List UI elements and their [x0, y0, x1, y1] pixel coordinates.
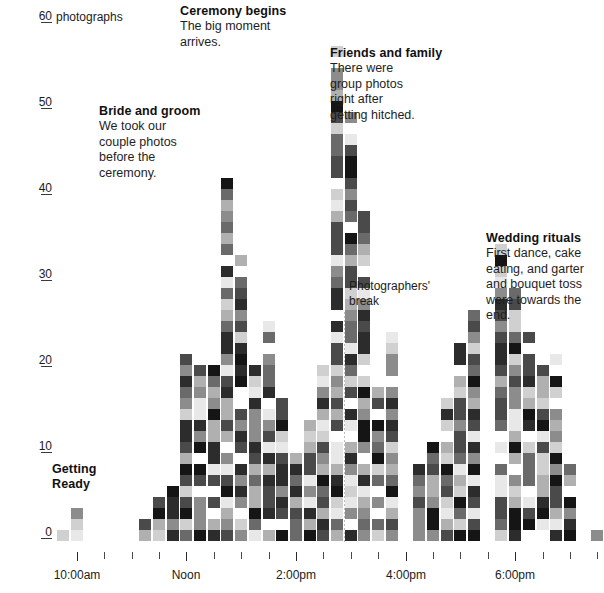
photo-cell — [304, 519, 316, 530]
photo-cell — [345, 442, 357, 453]
photo-cell — [153, 519, 165, 530]
photo-cell — [331, 409, 343, 420]
photo-cell — [441, 464, 453, 475]
photo-cell — [495, 387, 507, 398]
photo-cell — [263, 398, 275, 409]
photo-cell — [221, 178, 233, 189]
photo-cell — [180, 453, 192, 464]
photo-cell — [331, 431, 343, 442]
photo-cell — [249, 365, 261, 376]
photo-cell — [523, 354, 535, 365]
photo-cell — [358, 376, 370, 387]
annotation-heading: Ceremony begins — [180, 4, 286, 19]
photo-cell — [386, 475, 398, 486]
photo-cell — [523, 431, 535, 442]
photo-cell — [235, 343, 247, 354]
photo-cell — [468, 530, 480, 541]
photo-cell — [509, 343, 521, 354]
annotation-body: We took our couple photos before the cer… — [99, 119, 201, 181]
photo-cell — [331, 442, 343, 453]
photo-cell — [345, 189, 357, 200]
photo-cell — [468, 299, 480, 310]
photo-cell — [290, 530, 302, 541]
photo-cell — [537, 409, 549, 420]
photo-cell — [345, 453, 357, 464]
photo-cell — [235, 442, 247, 453]
photo-cell — [208, 398, 220, 409]
photo-cell — [441, 453, 453, 464]
photo-cell — [263, 442, 275, 453]
photo-cell — [358, 211, 370, 222]
photo-cell — [167, 519, 179, 530]
photo-cell — [221, 266, 233, 277]
photo-cell — [495, 354, 507, 365]
photo-cell — [235, 453, 247, 464]
photo-cell — [249, 453, 261, 464]
photo-cell — [276, 420, 288, 431]
photo-cell — [537, 431, 549, 442]
photo-cell — [509, 376, 521, 387]
annotation-body-line: before the — [99, 150, 201, 166]
photo-cell — [454, 387, 466, 398]
photo-cell — [235, 288, 247, 299]
photo-cell — [221, 431, 233, 442]
photographers-break-divider — [344, 312, 345, 542]
photo-cell — [249, 486, 261, 497]
photo-cell — [454, 343, 466, 354]
photo-cell — [208, 519, 220, 530]
photo-cell — [495, 420, 507, 431]
photo-cell — [317, 442, 329, 453]
photo-cell — [345, 530, 357, 541]
photo-cell — [345, 255, 357, 266]
photo-cell — [564, 464, 576, 475]
photo-cell — [317, 486, 329, 497]
photo-cell — [345, 266, 357, 277]
photo-cell — [180, 431, 192, 442]
photo-cell — [537, 442, 549, 453]
photo-cell — [221, 211, 233, 222]
photo-cell — [304, 497, 316, 508]
photo-cell — [386, 398, 398, 409]
photo-cell — [194, 464, 206, 475]
annotation-body-line: The big moment — [180, 19, 286, 35]
photo-cell — [537, 376, 549, 387]
photo-cell — [358, 486, 370, 497]
photo-cell — [537, 508, 549, 519]
photo-cell — [331, 299, 343, 310]
annotation-body-line: eating, and garter — [486, 262, 584, 278]
photo-cell — [345, 354, 357, 365]
photo-cell — [372, 442, 384, 453]
photo-cell — [208, 420, 220, 431]
photo-cell — [71, 530, 83, 541]
photo-cell — [591, 530, 603, 541]
photo-cell — [386, 343, 398, 354]
photo-cell — [441, 475, 453, 486]
photo-cell — [249, 354, 261, 365]
photo-cell — [372, 508, 384, 519]
photo-cell — [263, 497, 275, 508]
photo-cell — [263, 431, 275, 442]
photo-cell — [509, 409, 521, 420]
photo-cell — [345, 387, 357, 398]
photo-cell — [290, 508, 302, 519]
annotation-body: The big moment arrives. — [180, 19, 286, 50]
photo-cell — [331, 178, 343, 189]
photo-cell — [523, 409, 535, 420]
photo-cell — [550, 354, 562, 365]
annotation-heading-line2: Ready — [52, 477, 96, 492]
photo-cell — [235, 266, 247, 277]
photo-cell — [263, 376, 275, 387]
photo-cell — [372, 431, 384, 442]
photo-cell — [235, 519, 247, 530]
photo-cell — [454, 365, 466, 376]
photo-cell — [509, 420, 521, 431]
photo-cell — [221, 475, 233, 486]
photo-cell — [167, 508, 179, 519]
photo-cell — [386, 442, 398, 453]
photo-cell — [263, 387, 275, 398]
photo-cell — [180, 420, 192, 431]
photo-cell — [317, 475, 329, 486]
photo-cell — [345, 365, 357, 376]
annotation-ceremony-begins: Ceremony begins The big moment arrives. — [180, 4, 286, 50]
photo-cell — [427, 497, 439, 508]
